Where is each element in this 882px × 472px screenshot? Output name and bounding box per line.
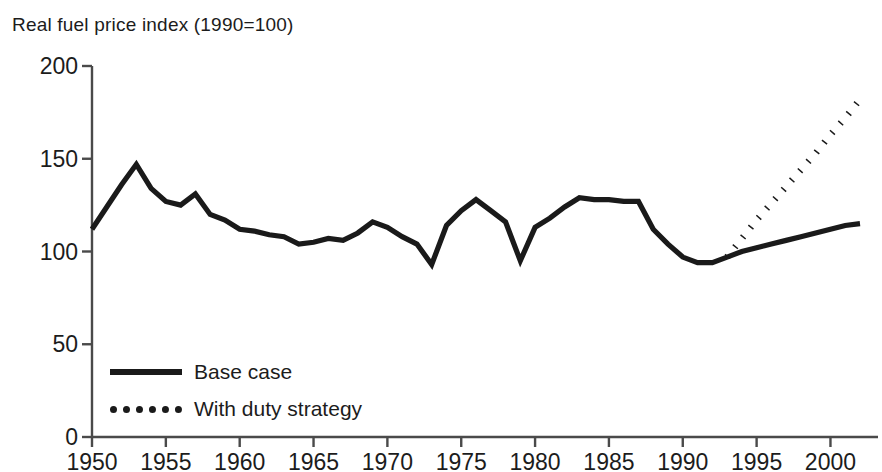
y-axis-tick-label: 200	[12, 53, 78, 80]
x-axis-tick-label: 1960	[214, 449, 265, 472]
y-axis-tick-label: 100	[12, 238, 78, 265]
x-axis-tick-label: 1965	[288, 449, 339, 472]
y-axis-tick-label: 50	[12, 331, 78, 358]
x-axis-tick-label: 2000	[805, 449, 856, 472]
x-axis-tick-label: 1980	[509, 449, 560, 472]
x-axis-tick-label: 1990	[657, 449, 708, 472]
axes	[82, 66, 878, 447]
legend-item-base-case: Base case	[110, 360, 292, 384]
legend-swatch-solid	[110, 369, 182, 375]
legend-label-base-case: Base case	[194, 360, 292, 384]
y-axis-tick-label: 0	[12, 424, 78, 451]
series-line-base-case	[92, 164, 860, 264]
x-axis-tick-label: 1985	[583, 449, 634, 472]
x-axis-tick-label: 1950	[66, 449, 117, 472]
data-series-group	[92, 99, 860, 264]
x-axis-ticks	[92, 437, 830, 447]
y-axis-ticks	[82, 66, 92, 437]
legend-item-with-duty-strategy: With duty strategy	[110, 397, 362, 421]
legend-swatch-dotted	[110, 406, 182, 413]
y-axis-tick-label: 150	[12, 145, 78, 172]
x-axis-tick-label: 1955	[140, 449, 191, 472]
x-axis-tick-label: 1970	[362, 449, 413, 472]
series-line-with-duty-strategy	[727, 99, 860, 257]
x-axis-tick-label: 1995	[731, 449, 782, 472]
x-axis-tick-label: 1975	[436, 449, 487, 472]
chart-figure: Real fuel price index (1990=100) 0501001…	[0, 0, 882, 472]
legend-label-with-duty-strategy: With duty strategy	[194, 397, 362, 421]
